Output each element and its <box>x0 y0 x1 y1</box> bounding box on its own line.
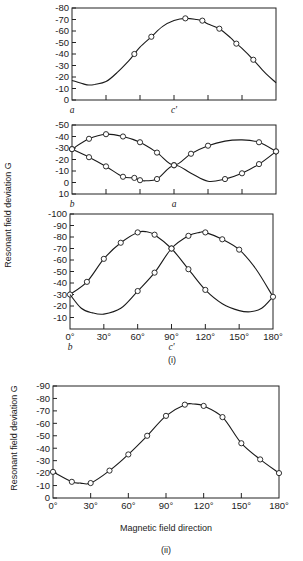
x-tick-label: 90° <box>164 331 179 342</box>
plot-frame <box>72 125 276 194</box>
y-tick-label: -40 <box>55 131 69 142</box>
x-tick-label: 120° <box>194 500 214 511</box>
x-tick-label: 0° <box>48 500 57 511</box>
y-tick-label: -60 <box>55 25 69 36</box>
crystal-axis-label: c' <box>168 342 175 352</box>
y-tick-label: -80 <box>36 393 50 404</box>
data-point-marker <box>188 151 193 156</box>
y-tick-label: -50 <box>55 37 69 48</box>
y-tick-label: -80 <box>55 2 69 13</box>
data-point-marker <box>145 433 150 438</box>
data-point-marker <box>137 140 142 145</box>
data-point-marker <box>126 452 131 457</box>
y-tick-label: -100 <box>48 208 67 219</box>
x-tick-label: 180° <box>269 500 289 511</box>
x-axis-label-ii: Magnetic field direction <box>120 523 212 533</box>
y-tick-label: -90 <box>36 380 50 391</box>
y-tick-label: -10 <box>55 83 69 94</box>
y-axis-label-ii: Resonant field deviation G <box>9 385 19 491</box>
data-point-marker <box>132 175 137 180</box>
data-point-marker <box>107 468 112 473</box>
data-point-marker <box>120 134 125 139</box>
x-tick-label: 30° <box>83 500 98 511</box>
data-point-marker <box>118 240 123 245</box>
y-tick-label: -40 <box>36 443 50 454</box>
data-point-marker <box>154 176 159 181</box>
data-point-marker <box>183 16 188 21</box>
crystal-axis-label: a <box>172 199 177 209</box>
data-point-marker <box>69 479 74 484</box>
y-tick-label: -40 <box>53 277 67 288</box>
y-tick-label: -20 <box>36 467 50 478</box>
crystal-axis-label: b <box>68 342 73 352</box>
panel-i-top: 0-10-20-30-40-50-60-70-80ac' <box>55 2 276 115</box>
y-tick-label: 10 <box>58 188 69 199</box>
y-tick-label: -70 <box>55 14 69 25</box>
data-point-marker <box>171 163 176 168</box>
data-point-marker <box>154 150 159 155</box>
data-point-marker <box>169 246 174 251</box>
data-point-marker <box>256 140 261 145</box>
series-curve <box>72 18 276 85</box>
plot-frame <box>53 386 279 498</box>
y-tick-label: -30 <box>55 60 69 71</box>
series-curve <box>72 134 276 165</box>
x-tick-label: 60° <box>121 500 136 511</box>
y-tick-label: 0 <box>64 94 69 105</box>
x-tick-label: 180° <box>263 331 283 342</box>
y-tick-label: -90 <box>53 220 67 231</box>
x-tick-label: 60° <box>130 331 145 342</box>
data-point-marker <box>132 51 137 56</box>
y-tick-label: -20 <box>55 71 69 82</box>
panel-i-bottom: -10-20-30-40-50-60-70-80-90-1000°30°60°9… <box>48 208 283 352</box>
part-ii-caption: (ii) <box>161 545 171 555</box>
plot-frame <box>72 8 276 100</box>
data-point-marker <box>103 164 108 169</box>
y-tick-label: -60 <box>36 418 50 429</box>
y-tick-label: -60 <box>53 254 67 265</box>
series-curve <box>70 231 273 312</box>
data-point-marker <box>149 34 154 39</box>
data-point-marker <box>251 57 256 62</box>
y-tick-label: 0 <box>64 177 69 188</box>
x-tick-label: 0° <box>65 331 74 342</box>
y-tick-label: -80 <box>53 231 67 242</box>
data-point-marker <box>186 233 191 238</box>
data-point-marker <box>152 270 157 275</box>
data-point-marker <box>220 415 225 420</box>
data-point-marker <box>200 18 205 23</box>
y-tick-label: -50 <box>53 266 67 277</box>
y-tick-label: -70 <box>53 243 67 254</box>
data-point-marker <box>237 247 242 252</box>
data-point-marker <box>101 256 106 261</box>
data-point-marker <box>182 402 187 407</box>
data-point-marker <box>88 480 93 485</box>
data-point-marker <box>273 149 278 154</box>
data-point-marker <box>86 155 91 160</box>
data-point-marker <box>239 171 244 176</box>
crystal-axis-label: a <box>70 105 75 115</box>
data-point-marker <box>203 287 208 292</box>
y-tick-label: -30 <box>55 142 69 153</box>
x-tick-label: 120° <box>196 331 216 342</box>
data-point-marker <box>186 267 191 272</box>
x-tick-label: 150° <box>232 500 252 511</box>
series-curve <box>70 232 273 315</box>
data-point-marker <box>256 162 261 167</box>
crystal-axis-label: b <box>70 199 75 209</box>
y-tick-label: -10 <box>55 165 69 176</box>
part-i-caption: (i) <box>168 355 176 365</box>
y-tick-label: -20 <box>53 300 67 311</box>
data-point-marker <box>234 41 239 46</box>
data-point-marker <box>205 143 210 148</box>
y-tick-label: -20 <box>55 154 69 165</box>
x-tick-label: 30° <box>97 331 112 342</box>
panel-ii: 0-10-20-30-40-50-60-70-80-900°30°60°90°1… <box>36 380 289 511</box>
data-point-marker <box>270 294 275 299</box>
y-tick-label: -30 <box>53 289 67 300</box>
data-point-marker <box>86 136 91 141</box>
data-point-marker <box>201 403 206 408</box>
data-point-marker <box>84 279 89 284</box>
data-point-marker <box>69 147 74 152</box>
y-axis-label-i: Resonant field deviation G <box>3 162 13 268</box>
